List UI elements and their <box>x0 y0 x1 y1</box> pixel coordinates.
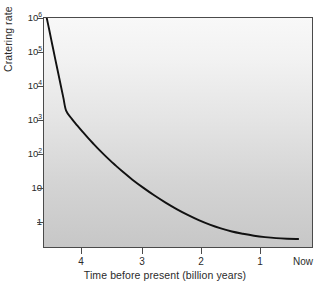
x-tick-label: 2 <box>198 256 204 268</box>
plot-area <box>43 17 313 248</box>
x-tick-label: 3 <box>139 256 145 268</box>
x-axis-tick <box>260 248 261 254</box>
cratering-rate-figure: Cratering rate 106 105 104 103 102 10 1 … <box>0 0 330 286</box>
y-axis-tick-labels: 106 105 104 103 102 10 1 <box>16 0 42 286</box>
x-axis-tick <box>81 248 82 254</box>
x-tick-label: 1 <box>257 256 263 268</box>
x-axis-title: Time before present (billion years) <box>0 269 330 281</box>
x-tick-label: Now <box>293 256 313 268</box>
x-tick-label: 4 <box>78 256 84 268</box>
x-axis-tick <box>142 248 143 254</box>
cratering-rate-curve <box>44 18 312 247</box>
x-axis-tick <box>201 248 202 254</box>
